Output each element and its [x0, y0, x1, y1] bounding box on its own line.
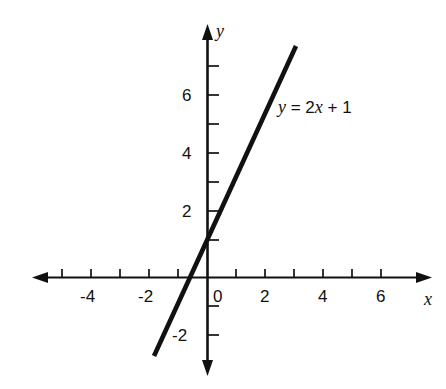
- plot-canvas: [0, 0, 446, 389]
- equation-variable-x: x: [315, 97, 323, 117]
- x-tick-label-4: 4: [318, 288, 327, 305]
- line-series-y-equals-2x-plus-1: [154, 46, 296, 356]
- x-axis-ticks: [62, 269, 381, 278]
- y-axis-arrow-down: [202, 360, 213, 376]
- x-tick-label-0: 0: [213, 288, 222, 305]
- y-tick-label-4: 4: [182, 145, 191, 162]
- equation-constant: + 1: [323, 98, 352, 117]
- equation-annotation: y = 2x + 1: [278, 98, 352, 116]
- y-tick-label--2: -2: [172, 327, 187, 344]
- x-axis-label: x: [424, 290, 432, 308]
- y-axis: [202, 24, 213, 376]
- coordinate-graph-figure: -4 -2 0 2 4 6 6 4 2 -2 y x y = 2x + 1: [0, 0, 446, 389]
- x-tick-label-2: 2: [260, 288, 269, 305]
- y-tick-label-6: 6: [182, 87, 191, 104]
- y-axis-arrow-up: [202, 24, 213, 40]
- y-axis-label: y: [216, 22, 224, 40]
- x-tick-label-6: 6: [376, 288, 385, 305]
- x-axis-arrow-right: [416, 272, 432, 283]
- y-tick-label-2: 2: [182, 203, 191, 220]
- equation-variable-y: y: [278, 97, 286, 117]
- equation-operator: = 2: [286, 98, 315, 117]
- x-tick-label--4: -4: [80, 288, 95, 305]
- x-tick-label--2: -2: [138, 288, 153, 305]
- x-axis: [32, 272, 432, 283]
- x-axis-arrow-left: [32, 272, 48, 283]
